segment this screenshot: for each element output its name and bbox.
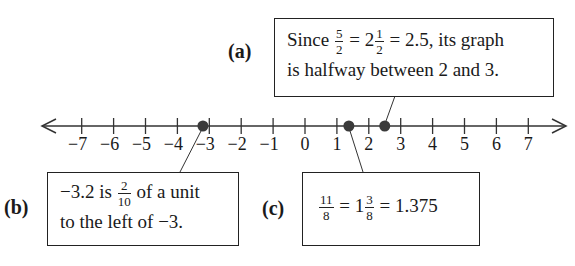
callout-a-line2: is halfway between 2 and 3.	[287, 58, 553, 82]
tick-label: 3	[396, 134, 405, 155]
denominator: 8	[319, 208, 334, 222]
text: of a unit	[132, 181, 200, 202]
callout-b-tag: (b)	[4, 196, 28, 219]
callout-b-box: −3.2 is 210 of a unit to the left of −3.	[47, 172, 239, 246]
text: = 2	[344, 29, 374, 50]
numerator: 1	[375, 27, 384, 42]
tick-label: 5	[460, 134, 469, 155]
fraction-2-10: 210	[118, 179, 131, 208]
fraction-5-2: 52	[335, 27, 344, 56]
tick-label: −4	[164, 134, 183, 155]
tick-label: 6	[492, 134, 501, 155]
denominator: 2	[375, 42, 384, 56]
fraction-3-8: 38	[365, 193, 374, 222]
callout-a-tag: (a)	[228, 40, 251, 63]
callout-a-box: Since 52 = 212 = 2.5, its graph is halfw…	[274, 18, 554, 97]
leader-line-c	[350, 131, 363, 172]
tick-label: 0	[301, 134, 310, 155]
denominator: 10	[118, 194, 131, 208]
tick-label: 4	[428, 134, 437, 155]
point-c	[343, 121, 354, 132]
callout-a-line1: Since 52 = 212 = 2.5, its graph	[287, 27, 553, 56]
tick-label: −5	[132, 134, 151, 155]
text: = 2.5, its graph	[385, 29, 504, 50]
callout-b-line2: to the left of −3.	[60, 210, 238, 234]
tick-label: −1	[260, 134, 279, 155]
tick-label: 1	[332, 134, 341, 155]
text: Since	[287, 29, 334, 50]
tick-label: −3	[196, 134, 215, 155]
tick-label: −2	[228, 134, 247, 155]
fraction-11-8: 118	[319, 193, 334, 222]
tick-label: 2	[364, 134, 373, 155]
callout-b-line1: −3.2 is 210 of a unit	[60, 179, 238, 208]
numerator: 2	[118, 179, 131, 194]
point-a	[379, 121, 390, 132]
callout-c-box: 118 = 138 = 1.375	[302, 172, 480, 246]
numerator: 3	[365, 193, 374, 208]
callout-c-line1: 118 = 138 = 1.375	[318, 193, 479, 222]
numerator: 11	[319, 193, 334, 208]
tick-label: −6	[100, 134, 119, 155]
denominator: 8	[365, 208, 374, 222]
numerator: 5	[335, 27, 344, 42]
point-b	[197, 121, 208, 132]
text: = 1	[335, 195, 365, 216]
leader-line-a	[386, 96, 395, 121]
denominator: 2	[335, 42, 344, 56]
callout-c-tag: (c)	[262, 197, 284, 220]
fraction-1-2: 12	[375, 27, 384, 56]
tick-label: −7	[68, 134, 87, 155]
tick-label: 7	[524, 134, 533, 155]
text: −3.2 is	[60, 181, 117, 202]
text: = 1.375	[375, 195, 438, 216]
